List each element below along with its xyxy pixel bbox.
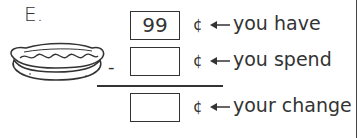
you-have-label: you have [233,12,321,34]
cent-sign: ¢ [193,16,203,34]
arrow-left-icon [210,102,230,112]
your-change-box[interactable] [130,93,180,122]
you-spend-box[interactable] [130,47,180,76]
cent-sign: ¢ [193,52,203,70]
your-change-label: your change [233,94,352,116]
page-border [356,0,357,138]
arrow-left-icon [210,20,230,30]
minus-sign: - [108,56,115,77]
you-spend-label: you spend [233,48,332,70]
arrow-left-icon [210,56,230,66]
problem-label: E. [24,2,43,26]
cent-sign: ¢ [193,98,203,116]
hot-dog-icon [6,38,108,84]
you-have-box: 99 [130,11,180,40]
sum-line [97,85,223,87]
